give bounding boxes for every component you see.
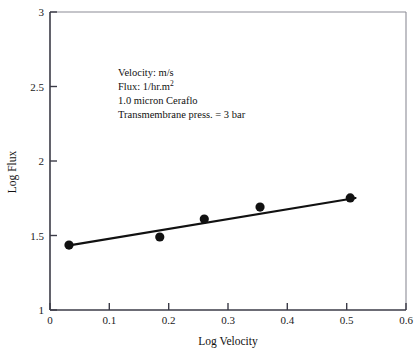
- annotation-line-flux: Flux: 1/hr.m2: [118, 79, 174, 93]
- y-tick-label-2: 1.5: [30, 230, 44, 242]
- x-tick-label-7: 0.6: [399, 314, 413, 326]
- annotation-flux-base: Flux: 1/hr.m: [118, 81, 170, 92]
- x-tick-label-3: 0.2: [162, 314, 176, 326]
- y-axis-tick-labels: 1 1.5 2 2.5 3: [30, 6, 44, 316]
- x-tick-label-5: 0.4: [280, 314, 294, 326]
- data-point: [200, 215, 209, 224]
- data-point: [64, 240, 73, 249]
- y-tick-label-3: 2: [39, 155, 45, 167]
- chart-figure: 1 1.5 2 2.5 3 0 0.1 0.2 0.3 0.4 0.5 0.6: [0, 0, 419, 357]
- scatter-chart: 1 1.5 2 2.5 3 0 0.1 0.2 0.3 0.4 0.5 0.6: [0, 0, 419, 357]
- plot-area-background: [50, 12, 406, 310]
- x-tick-label-6: 0.5: [340, 314, 354, 326]
- annotation-flux-superscript: 2: [170, 79, 174, 88]
- y-axis-title: Log Flux: [6, 151, 19, 194]
- annotation-line-pressure: Transmembrane press. = 3 bar: [118, 109, 246, 120]
- x-tick-label-4: 0.3: [221, 314, 235, 326]
- data-point: [255, 202, 264, 211]
- y-tick-label-5: 3: [39, 6, 45, 18]
- y-tick-label-1: 1: [39, 304, 45, 316]
- data-point: [346, 193, 355, 202]
- x-axis-title: Log Velocity: [198, 335, 258, 348]
- y-tick-label-4: 2.5: [30, 81, 44, 93]
- x-axis-tick-labels: 0 0.1 0.2 0.3 0.4 0.5 0.6: [47, 314, 413, 326]
- x-tick-label-2: 0.1: [102, 314, 116, 326]
- annotation-line-membrane: 1.0 micron Ceraflo: [118, 95, 198, 106]
- annotation-line-velocity: Velocity: m/s: [118, 67, 174, 78]
- data-point: [155, 232, 164, 241]
- x-tick-label-1: 0: [47, 314, 53, 326]
